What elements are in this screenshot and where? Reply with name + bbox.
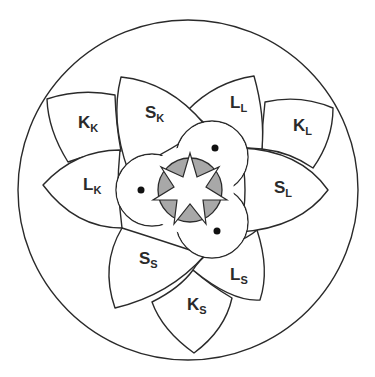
dot-top-right	[212, 145, 219, 152]
dot-left	[138, 187, 145, 194]
dot-bottom-right	[214, 228, 221, 235]
flower-diagram: KK SK LL KL LK SL SS LS KS	[0, 0, 375, 377]
